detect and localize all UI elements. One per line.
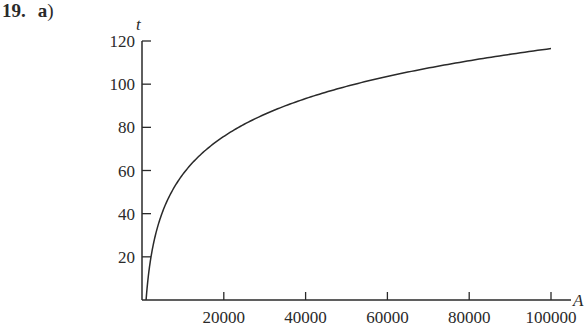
y-tick-label: 80 [118,118,135,137]
x-tick-label: 60000 [366,308,409,327]
y-tick-label: 120 [110,32,136,51]
y-tick-label: 40 [118,205,135,224]
y-axis-label: t [136,15,142,34]
x-tick-label: 80000 [448,308,491,327]
x-tick-label: 40000 [284,308,327,327]
x-tick-label: 20000 [203,308,246,327]
data-curve [146,49,551,300]
y-tick-label: 20 [118,248,135,267]
x-tick-label: 100000 [526,308,577,327]
chart: 2040608010012020000400006000080000100000… [0,0,584,327]
ticks [142,41,551,300]
y-tick-label: 60 [118,162,135,181]
x-axis-label: A [572,291,584,310]
y-tick-label: 100 [110,75,136,94]
axes [142,41,571,300]
